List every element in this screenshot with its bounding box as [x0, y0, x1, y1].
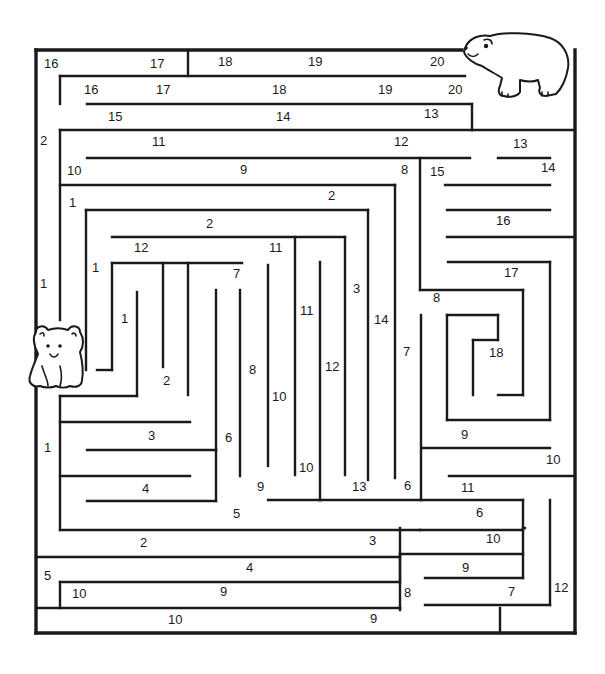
path-number-label: 1 — [44, 440, 51, 455]
path-number-label: 8 — [249, 362, 256, 377]
path-number-label: 16 — [496, 213, 510, 228]
path-number-label: 2 — [163, 373, 170, 388]
path-number-label: 9 — [461, 427, 468, 442]
path-number-label: 18 — [218, 54, 232, 69]
path-number-label: 17 — [504, 265, 518, 280]
path-number-label: 10 — [168, 612, 182, 627]
path-number-label: 15 — [430, 164, 444, 179]
path-number-label: 9 — [370, 611, 377, 626]
path-number-label: 4 — [142, 481, 149, 496]
path-number-label: 20 — [430, 54, 444, 69]
path-number-label: 10 — [486, 531, 500, 546]
path-number-label: 10 — [72, 586, 86, 601]
path-number-label: 18 — [489, 345, 503, 360]
path-number-label: 5 — [233, 506, 240, 521]
path-number-label: 7 — [403, 344, 410, 359]
path-number-label: 3 — [148, 428, 155, 443]
path-number-label: 2 — [40, 133, 47, 148]
path-number-label: 8 — [404, 585, 411, 600]
path-number-label: 19 — [378, 82, 392, 97]
path-number-label: 11 — [300, 303, 314, 318]
path-number-label: 13 — [424, 106, 438, 121]
path-number-label: 13 — [352, 479, 366, 494]
path-number-label: 8 — [433, 290, 440, 305]
path-number-label: 17 — [156, 82, 170, 97]
path-number-label: 9 — [240, 162, 247, 177]
path-number-label: 2 — [328, 188, 335, 203]
path-number-label: 16 — [44, 56, 58, 71]
path-number-label: 11 — [152, 134, 166, 149]
path-number-label: 1 — [69, 195, 76, 210]
path-number-label: 12 — [325, 359, 339, 374]
path-number-label: 3 — [369, 533, 376, 548]
path-number-label: 20 — [448, 82, 462, 97]
path-number-label: 1 — [92, 260, 99, 275]
path-number-label: 17 — [150, 56, 164, 71]
path-number-label: 14 — [374, 312, 388, 327]
path-number-label: 2 — [140, 535, 147, 550]
path-number-label: 13 — [513, 136, 527, 151]
path-number-label: 10 — [67, 163, 81, 178]
path-number-label: 15 — [108, 109, 122, 124]
path-number-label: 14 — [276, 109, 290, 124]
path-number-label: 3 — [353, 281, 360, 296]
path-number-label: 12 — [394, 134, 408, 149]
bear-cub-icon — [29, 326, 83, 387]
maze-puzzle: 1617181920161718192015141321112131098151… — [0, 0, 605, 674]
path-number-label: 11 — [461, 480, 475, 495]
path-number-label: 11 — [269, 240, 283, 255]
path-number-label: 10 — [272, 389, 286, 404]
path-number-label: 14 — [541, 160, 555, 175]
path-number-label: 10 — [546, 452, 560, 467]
path-number-label: 10 — [299, 460, 313, 475]
maze-canvas[interactable]: 1617181920161718192015141321112131098151… — [0, 0, 605, 674]
path-number-label: 16 — [84, 82, 98, 97]
path-number-label: 8 — [401, 162, 408, 177]
path-number-label: 6 — [476, 505, 483, 520]
path-number-label: 6 — [225, 430, 232, 445]
path-number-label: 12 — [134, 240, 148, 255]
path-number-label: 7 — [233, 266, 240, 281]
path-number-label: 7 — [508, 584, 515, 599]
path-number-label: 4 — [246, 560, 253, 575]
polar-bear-icon — [464, 33, 568, 97]
path-number-label: 12 — [554, 580, 568, 595]
path-number-label: 5 — [44, 568, 51, 583]
path-number-label: 18 — [272, 82, 286, 97]
path-number-label: 1 — [121, 311, 128, 326]
path-number-label: 9 — [462, 560, 469, 575]
path-number-label: 9 — [220, 584, 227, 599]
path-number-label: 2 — [206, 216, 213, 231]
path-number-label: 1 — [40, 276, 47, 291]
path-number-label: 19 — [308, 54, 322, 69]
path-number-label: 6 — [404, 478, 411, 493]
path-number-label: 9 — [257, 479, 264, 494]
